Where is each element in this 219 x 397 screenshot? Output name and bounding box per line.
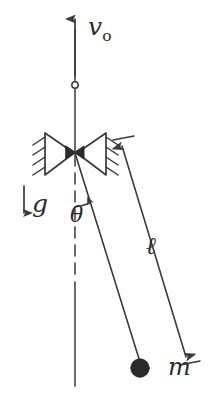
mass-label: m [168,355,191,379]
support-hatching-left [33,137,45,175]
hinge-ring-icon [72,82,78,88]
velocity-subscript: o [102,27,111,45]
pendulum-bob [131,359,149,377]
velocity-label: vo [88,14,111,45]
length-tick-top [113,136,134,140]
support-hatching-right [106,137,118,175]
velocity-symbol: v [88,12,102,41]
pendulum-diagram: vo g θ ℓ m [0,0,219,397]
length-label: ℓ [146,234,156,258]
angle-label: θ [70,204,83,226]
gravity-label: g [32,191,48,216]
pendulum-rod [75,153,140,362]
